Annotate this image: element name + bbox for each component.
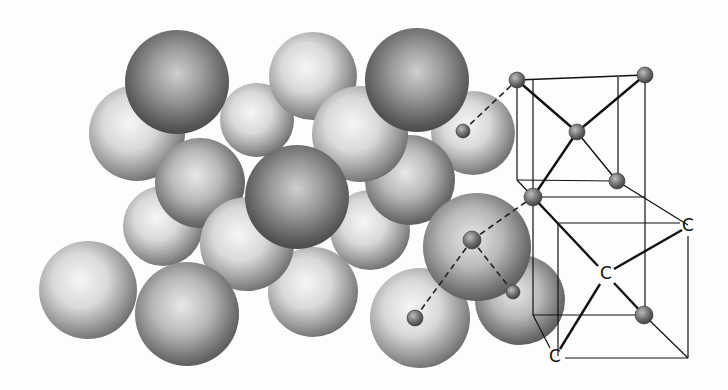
interstitial-atom: [456, 124, 470, 138]
host-sphere: [135, 262, 239, 366]
unit-cell-wireframe: [517, 75, 688, 358]
host-sphere: [365, 28, 469, 132]
interstitial-atom: [637, 67, 653, 83]
interstitial-atom: [635, 306, 653, 324]
interstitial-atom: [524, 188, 542, 206]
interstitial-atom: [509, 72, 525, 88]
interstitial-atom: [569, 124, 585, 140]
host-sphere: [245, 145, 349, 249]
host-sphere: [125, 30, 229, 134]
interstitial-atom: [506, 285, 520, 299]
interstitial-atom: [609, 173, 625, 189]
interstitial-atom: [463, 231, 481, 249]
host-spheres: [39, 28, 565, 368]
carbon-label-right: C: [682, 215, 694, 235]
carbon-label-bottom: C: [549, 346, 561, 366]
crystal-structure-diagram: C C C: [0, 0, 728, 390]
interstitial-atom: [407, 310, 423, 326]
diagram-canvas: C C C: [0, 0, 728, 390]
host-sphere: [39, 241, 137, 339]
carbon-label-center: C: [600, 263, 612, 283]
